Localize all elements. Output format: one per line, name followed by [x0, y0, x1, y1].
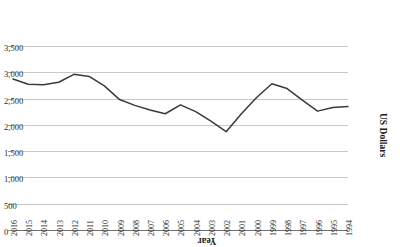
plot-area: 05001,0001,5002,0002,5003,0003,500 20162… — [13, 47, 348, 231]
chart-figure: Year US Dollars 05001,0001,5002,0002,500… — [0, 0, 414, 247]
line-path — [13, 74, 348, 131]
line-series-us-dollars — [13, 47, 348, 231]
y-tick-label-0: 0 — [4, 227, 8, 237]
x-axis-title: Year — [0, 236, 414, 246]
y-axis-title: US Dollars — [378, 113, 388, 157]
